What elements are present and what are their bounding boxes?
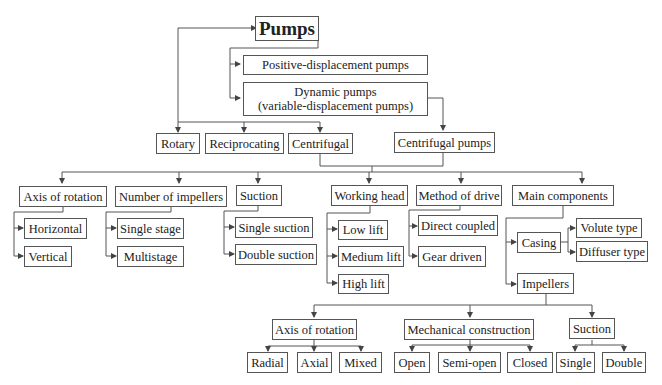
high-lift-node: High lift [338, 274, 389, 294]
dynamic-pumps-node: Dynamic pumps (variable-displacement pum… [243, 82, 428, 116]
centrifugal-pumps-node: Centrifugal pumps [394, 132, 495, 153]
single-node: Single [556, 352, 595, 373]
radial-node: Radial [247, 352, 288, 373]
dynamic-line2: (variable-displacement pumps) [258, 99, 413, 113]
single-stage-node: Single stage [117, 218, 184, 239]
single-suction-node: Single suction [235, 217, 313, 238]
method-of-drive-node: Method of drive [416, 185, 502, 206]
closed-node: Closed [507, 352, 553, 373]
rotary-node: Rotary [156, 133, 200, 154]
vertical-node: Vertical [24, 246, 72, 267]
medium-lift-node: Medium lift [338, 246, 404, 267]
diffuser-type-node: Diffuser type [576, 241, 648, 262]
reciprocating-node: Reciprocating [205, 133, 284, 154]
direct-coupled-node: Direct coupled [418, 215, 498, 236]
impeller-axis-of-rotation-node: Axis of rotation [272, 319, 357, 340]
open-node: Open [394, 352, 430, 373]
main-components-node: Main components [512, 185, 614, 206]
horizontal-node: Horizontal [24, 218, 87, 239]
working-head-node: Working head [331, 185, 408, 206]
number-of-impellers-node: Number of impellers [115, 186, 227, 207]
low-lift-node: Low lift [338, 220, 388, 240]
mechanical-construction-node: Mechanical construction [404, 319, 534, 340]
semi-open-node: Semi-open [438, 352, 501, 373]
axial-node: Axial [297, 352, 332, 373]
gear-driven-node: Gear driven [418, 246, 486, 267]
multistage-node: Multistage [117, 246, 184, 267]
volute-type-node: Volute type [576, 218, 642, 238]
casing-node: Casing [517, 232, 561, 253]
positive-displacement-node: Positive-displacement pumps [243, 55, 428, 75]
impellers-node: Impellers [517, 273, 574, 294]
dynamic-line1: Dynamic pumps [294, 85, 376, 99]
pumps-root-node: Pumps [255, 16, 319, 41]
suction-node: Suction [236, 185, 282, 206]
pump-classification-diagram: Pumps Positive-displacement pumps Dynami… [0, 0, 662, 385]
axis-of-rotation-node: Axis of rotation [19, 186, 107, 207]
centrifugal-node: Centrifugal [288, 133, 353, 154]
double-suction-node: Double suction [235, 244, 317, 265]
impeller-suction-node: Suction [569, 318, 615, 339]
mixed-node: Mixed [339, 352, 382, 373]
double-node: Double [602, 352, 646, 373]
